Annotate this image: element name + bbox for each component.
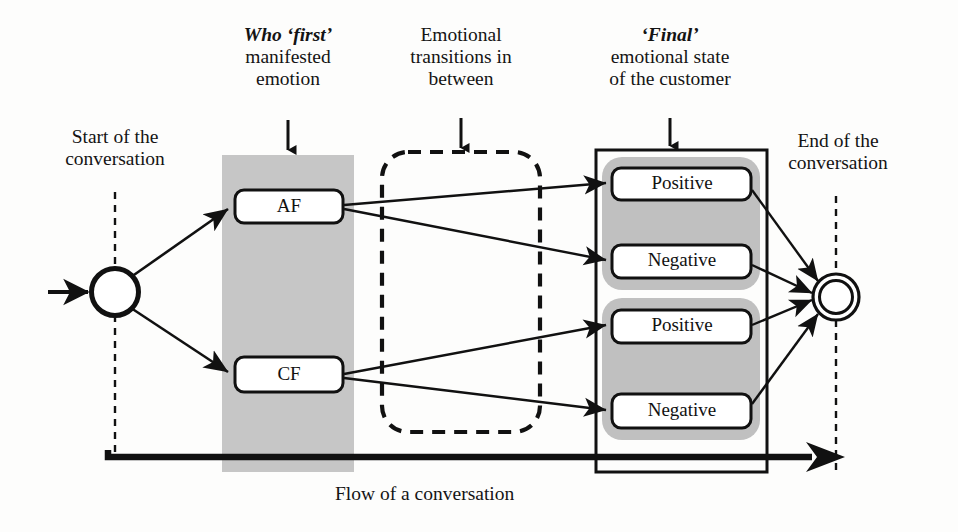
label-who-first-emphasis: Who ‘first’ [244, 24, 332, 45]
figure-caption: Flow of a conversation [335, 483, 514, 505]
edge-cf-negative-end [752, 314, 818, 404]
edge-af-negative-end [752, 265, 812, 293]
node-af-label: AF [277, 195, 301, 216]
label-who-first-line2: manifested [245, 46, 331, 67]
label-transitions: Emotional transitions in between [371, 24, 551, 89]
edge-start-af [131, 209, 228, 277]
diagram-canvas: AF CF Positive Negative Positive Negativ… [0, 0, 958, 532]
node-cf-label: CF [277, 363, 300, 384]
edge-start-cf [131, 308, 228, 372]
edge-af-positive-end [752, 190, 818, 281]
label-start-line1: Start of the [72, 126, 159, 147]
label-final-state-line3: of the customer [609, 68, 730, 89]
label-final-state-emphasis: ‘Final’ [641, 24, 698, 45]
label-transitions-line2: transitions in [410, 46, 511, 67]
label-end-line1: End of the [797, 130, 878, 151]
label-who-first: Who ‘first’ manifested emotion [188, 24, 388, 89]
label-end-of-conversation: End of the conversation [748, 130, 928, 174]
node-cf-negative-label: Negative [648, 399, 717, 420]
node-af-negative-label: Negative [648, 249, 717, 270]
label-final-state: ‘Final’ emotional state of the customer [566, 24, 774, 89]
label-transitions-line1: Emotional [420, 24, 501, 45]
label-end-line2: conversation [788, 152, 888, 173]
flow-line [108, 450, 812, 457]
label-start-of-conversation: Start of the conversation [22, 126, 208, 170]
edge-cf-positive-end [752, 300, 812, 325]
node-cf-positive-label: Positive [651, 314, 712, 335]
label-start-line2: conversation [65, 148, 165, 169]
end-node-inner [820, 281, 853, 314]
label-transitions-line3: between [429, 68, 494, 89]
label-final-state-line2: emotional state [611, 46, 730, 67]
node-af-positive-label: Positive [651, 172, 712, 193]
label-who-first-line3: emotion [256, 68, 320, 89]
